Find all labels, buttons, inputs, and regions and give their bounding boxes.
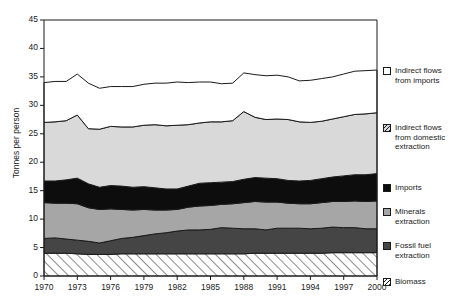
- area-series: [44, 70, 377, 129]
- legend-swatch-minerals-icon: [383, 208, 391, 216]
- area-series: [44, 253, 377, 276]
- legend-swatch-fossil-fuel-icon: [383, 242, 391, 250]
- legend-item-indirect-imports[interactable]: Indirect flowsfrom imports: [383, 66, 442, 85]
- legend-label-indirect-domestic: Indirect flowsfrom domesticextraction: [395, 123, 445, 152]
- legend-label-biomass: Biomass: [395, 277, 426, 287]
- legend-swatch-biomass-icon: [383, 278, 391, 286]
- legend-label-imports: Imports: [395, 183, 422, 193]
- stacked-area-chart: Tonnes per person 051015202530354045 197…: [0, 0, 468, 307]
- legend-swatch-indirect-imports-icon: [383, 67, 391, 75]
- legend-swatch-indirect-domestic-icon: [383, 124, 391, 132]
- legend-item-minerals[interactable]: Mineralsextraction: [383, 207, 430, 226]
- legend-label-minerals: Mineralsextraction: [395, 207, 430, 226]
- legend-item-indirect-domestic[interactable]: Indirect flowsfrom domesticextraction: [383, 123, 445, 152]
- legend-item-biomass[interactable]: Biomass: [383, 277, 426, 287]
- legend-swatch-imports-icon: [383, 184, 391, 192]
- legend-label-fossil-fuel: Fossil fuelextraction: [395, 241, 431, 260]
- legend-item-fossil-fuel[interactable]: Fossil fuelextraction: [383, 241, 431, 260]
- legend-item-imports[interactable]: Imports: [383, 183, 422, 193]
- area-series-group: [44, 70, 377, 276]
- plot-area: [0, 0, 468, 307]
- legend-label-indirect-imports: Indirect flowsfrom imports: [395, 66, 442, 85]
